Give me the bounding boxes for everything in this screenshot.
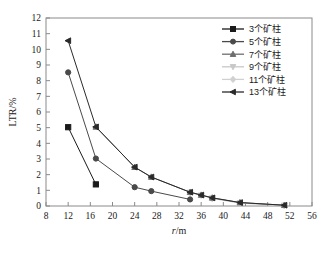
y-axis-tick-label: 0 [36, 201, 41, 211]
y-axis-title: LTR/% [7, 97, 18, 126]
x-axis-tick-label: 16 [86, 211, 96, 221]
data-point-marker [65, 38, 71, 44]
y-axis-tick-label: 7 [36, 92, 41, 102]
data-point-marker [132, 185, 137, 190]
data-point-marker [66, 70, 71, 75]
legend-label: 9个矿柱 [249, 61, 281, 72]
y-axis-tick-label: 1 [36, 186, 41, 196]
x-axis-tick-label: 32 [174, 211, 184, 221]
data-point-marker [93, 182, 98, 187]
x-axis-tick-label: 20 [108, 211, 118, 221]
x-axis-tick-label: 12 [63, 211, 73, 221]
data-point-marker [230, 65, 236, 70]
legend-label: 13个矿柱 [249, 86, 286, 97]
series-1 [66, 70, 193, 202]
series-0 [66, 125, 99, 187]
y-axis-tick-label: 9 [36, 60, 41, 70]
legend-label: 7个矿柱 [249, 49, 281, 60]
legend-label: 3个矿柱 [249, 23, 281, 34]
y-axis-tick-label: 3 [36, 154, 41, 164]
y-axis-tick-label: 12 [32, 13, 42, 23]
data-point-marker [230, 51, 236, 56]
x-axis-tick-label: 44 [241, 211, 251, 221]
x-axis-tick-label: 40 [219, 211, 229, 221]
x-axis-title: r/m [172, 225, 187, 236]
y-axis-tick-label: 6 [36, 107, 41, 117]
data-point-marker [231, 39, 236, 44]
y-axis-tick-label: 8 [36, 76, 41, 86]
data-point-marker [187, 197, 192, 202]
x-axis-tick-label: 56 [307, 211, 317, 221]
line-chart: 8121620242832364044485256012345678910111… [0, 0, 328, 258]
legend-label: 11个矿柱 [249, 74, 285, 85]
chart-figure: 8121620242832364044485256012345678910111… [0, 0, 328, 258]
legend-label: 5个矿柱 [249, 36, 281, 47]
y-axis-tick-label: 2 [36, 170, 41, 180]
data-point-marker [230, 89, 235, 95]
series-4 [209, 195, 287, 209]
data-point-marker [149, 189, 154, 194]
data-point-marker [93, 156, 98, 161]
series-2 [93, 124, 287, 208]
x-axis-tick-label: 8 [44, 211, 49, 221]
x-axis-tick-label: 52 [285, 211, 295, 221]
y-axis-tick-label: 11 [32, 29, 41, 39]
x-axis-tick-label: 24 [130, 211, 140, 221]
y-axis-tick-label: 10 [32, 45, 42, 55]
x-axis-tick-label: 48 [263, 211, 273, 221]
data-point-marker [230, 76, 236, 82]
data-point-marker [66, 125, 71, 130]
y-axis-tick-label: 5 [36, 123, 41, 133]
legend: 3个矿柱5个矿柱7个矿柱9个矿柱11个矿柱13个矿柱 [222, 23, 286, 97]
series-line [68, 72, 190, 199]
series-line [68, 127, 96, 184]
x-axis-tick-label: 28 [152, 211, 162, 221]
data-point-marker [231, 27, 236, 32]
x-axis-tick-label: 36 [196, 211, 206, 221]
y-axis-tick-label: 4 [36, 139, 41, 149]
